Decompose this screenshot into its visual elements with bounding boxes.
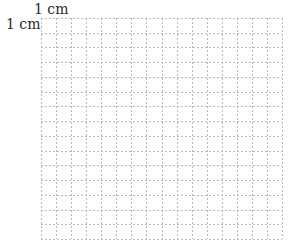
grid-paper bbox=[0, 0, 289, 246]
